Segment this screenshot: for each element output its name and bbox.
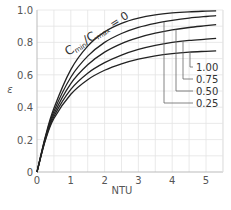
y-tick-label: 0.2 — [17, 135, 33, 146]
curve-label: 0.75 — [196, 74, 218, 85]
curve-label: 0.50 — [196, 86, 218, 97]
x-tick-label: 5 — [203, 175, 209, 186]
x-tick-label: 1 — [68, 175, 74, 186]
curve-label: 1.00 — [196, 62, 218, 73]
y-tick-label: 0.6 — [17, 70, 33, 81]
curve-label: 0.25 — [196, 98, 218, 109]
x-axis-label: NTU — [112, 185, 133, 196]
x-tick-label: 3 — [135, 175, 141, 186]
y-axis-label: ε — [7, 84, 13, 95]
y-tick-label: 0.8 — [17, 37, 33, 48]
x-tick-label: 0 — [34, 175, 40, 186]
x-tick-label: 2 — [101, 175, 107, 186]
axes: 01234500.20.40.60.81.0 — [17, 5, 223, 186]
x-tick-label: 4 — [169, 175, 175, 186]
y-tick-label: 0.4 — [17, 102, 33, 113]
effectiveness-chart: 01234500.20.40.60.81.0 1.000.750.500.25 … — [0, 0, 231, 210]
y-tick-label: 0 — [27, 167, 33, 178]
y-tick-label: 1.0 — [17, 5, 33, 16]
